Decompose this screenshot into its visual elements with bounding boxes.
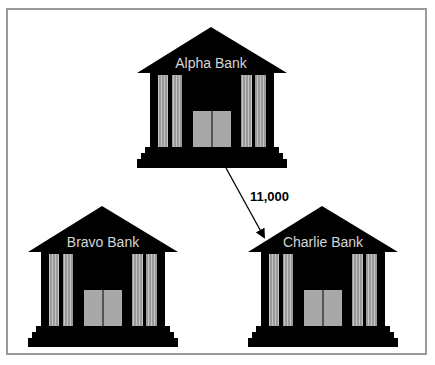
bank-bravo-label: Bravo Bank <box>67 234 140 250</box>
bank-alpha: Alpha Bank <box>137 27 287 168</box>
bank-transfer-diagram: Alpha Bank Bravo Bank Charlie Bank 11,00… <box>0 0 435 365</box>
bank-bravo: Bravo Bank <box>28 206 178 347</box>
bank-charlie: Charlie Bank <box>248 206 398 347</box>
bank-charlie-label: Charlie Bank <box>283 234 364 250</box>
transfer-amount-label: 11,000 <box>250 189 289 204</box>
bank-alpha-label: Alpha Bank <box>175 55 248 71</box>
